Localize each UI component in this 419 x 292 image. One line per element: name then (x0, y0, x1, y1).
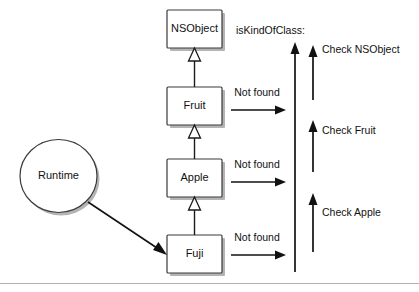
class-label-apple: Apple (180, 171, 208, 183)
class-label-nsobject: NSObject (171, 22, 218, 34)
check-label-fruit: Check Fruit (322, 124, 376, 136)
inheritance-arrow-apple-to-fruit (189, 125, 201, 159)
iskindofclass-spine (291, 42, 300, 272)
check-annotation-apple: Check Apple (309, 193, 382, 252)
inheritance-arrow-fruit-to-nsobject (189, 48, 201, 87)
not-found-label-fuji: Not found (234, 231, 280, 243)
class-node-fuji: Fuji (167, 235, 225, 276)
not-found-arrow-apple: Not found (231, 158, 286, 187)
runtime-node: Runtime (20, 140, 100, 216)
not-found-arrow-fuji: Not found (231, 231, 286, 260)
class-label-fruit: Fruit (184, 99, 206, 111)
runtime-to-fuji-arrow (88, 202, 167, 255)
check-annotation-nsobject: Check NSObject (309, 43, 400, 100)
check-annotation-fruit: Check Fruit (309, 120, 376, 172)
not-found-label-fruit: Not found (234, 86, 280, 98)
not-found-arrow-fruit: Not found (231, 86, 286, 115)
not-found-label-apple: Not found (234, 158, 280, 170)
class-label-fuji: Fuji (186, 247, 204, 259)
class-node-fruit: Fruit (167, 87, 225, 128)
diagram-canvas: NSObject Fruit Apple Fuji (0, 0, 419, 292)
iskindofclass-title: isKindOfClass: (236, 24, 305, 36)
class-node-nsobject: NSObject (167, 10, 225, 51)
class-node-apple: Apple (167, 159, 225, 200)
inheritance-arrow-fuji-to-apple (189, 197, 201, 235)
runtime-label: Runtime (38, 169, 79, 181)
check-label-apple: Check Apple (322, 206, 381, 218)
check-label-nsobject: Check NSObject (322, 43, 400, 55)
